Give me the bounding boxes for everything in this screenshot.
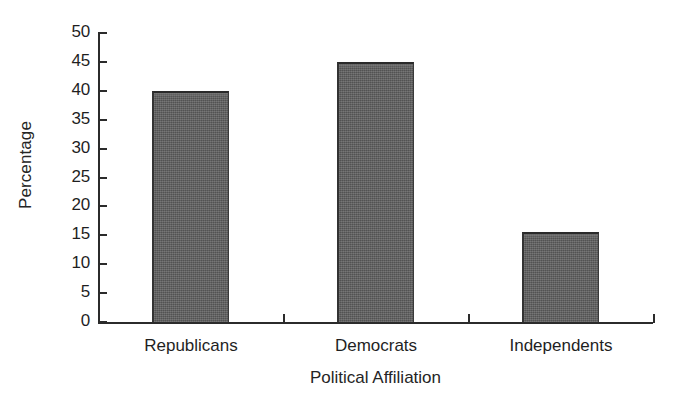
y-tick-mark bbox=[98, 177, 107, 179]
y-tick-mark bbox=[98, 205, 107, 207]
y-tick-label: 5 bbox=[46, 282, 90, 302]
x-category-label: Democrats bbox=[281, 336, 471, 356]
y-tick-mark bbox=[98, 292, 107, 294]
x-category-label: Independents bbox=[466, 336, 656, 356]
bar bbox=[337, 62, 414, 322]
y-tick-mark bbox=[98, 61, 107, 63]
y-tick-mark bbox=[98, 148, 107, 150]
x-tick-mark bbox=[653, 314, 655, 323]
y-tick-label: 45 bbox=[46, 51, 90, 71]
x-tick-mark bbox=[98, 314, 100, 323]
x-axis-line bbox=[98, 322, 653, 324]
y-tick-mark bbox=[98, 119, 107, 121]
y-axis-line bbox=[98, 33, 100, 324]
y-axis-title: Percentage bbox=[16, 95, 36, 235]
y-tick-mark bbox=[98, 90, 107, 92]
y-tick-mark bbox=[98, 234, 107, 236]
x-tick-mark bbox=[468, 314, 470, 323]
x-tick-mark bbox=[283, 314, 285, 323]
y-tick-label: 50 bbox=[46, 22, 90, 42]
y-tick-label: 35 bbox=[46, 109, 90, 129]
y-tick-label: 30 bbox=[46, 138, 90, 158]
y-tick-label: 10 bbox=[46, 253, 90, 273]
y-tick-label: 0 bbox=[46, 311, 90, 331]
bar bbox=[152, 91, 229, 322]
x-axis-title: Political Affiliation bbox=[98, 368, 653, 388]
y-tick-mark bbox=[98, 32, 107, 34]
y-tick-label: 15 bbox=[46, 224, 90, 244]
x-category-label: Republicans bbox=[96, 336, 286, 356]
bar-chart-figure: Percentage 05101520253035404550 Republic… bbox=[0, 0, 683, 406]
y-tick-label: 25 bbox=[46, 167, 90, 187]
y-tick-mark bbox=[98, 263, 107, 265]
y-tick-label: 40 bbox=[46, 80, 90, 100]
bar bbox=[522, 232, 599, 322]
y-tick-label: 20 bbox=[46, 195, 90, 215]
